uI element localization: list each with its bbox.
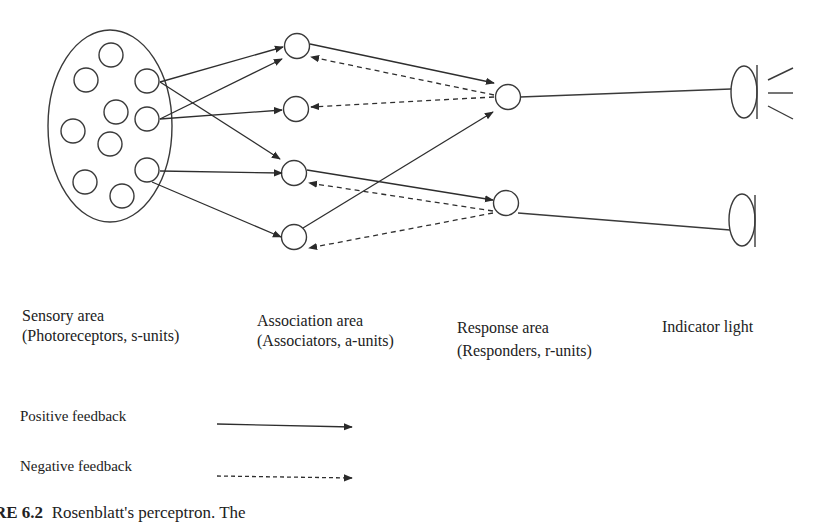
association-area-title: Association area xyxy=(257,311,394,331)
indicator-light-lit-icon xyxy=(731,65,793,119)
figure-number: RE 6.2 xyxy=(0,503,43,522)
indicator-light-title: Indicator light xyxy=(662,317,753,337)
s-units xyxy=(61,43,159,208)
legend-positive-label: Positive feedback xyxy=(20,408,126,425)
association-area-subtitle: (Associators, a-units) xyxy=(257,331,394,351)
association-area-label: Association area (Associators, a-units) xyxy=(257,311,394,351)
r-units xyxy=(494,85,521,216)
legend-positive-arrow xyxy=(217,424,352,427)
r-to-light-connections xyxy=(518,89,731,230)
figure-caption-text: Rosenblatt's perceptron. The xyxy=(52,503,246,522)
indicator-light-label: Indicator light xyxy=(662,317,753,337)
indicator-light-off-icon xyxy=(729,194,755,247)
sensory-area-label: Sensory area (Photoreceptors, s-units) xyxy=(22,306,179,346)
legend-negative-label: Negative feedback xyxy=(20,458,132,475)
response-area-label: Response area (Responders, r-units) xyxy=(457,316,592,362)
response-area-subtitle: (Responders, r-units) xyxy=(457,339,592,362)
r-to-a-feedback xyxy=(309,57,494,248)
a-units xyxy=(282,34,310,250)
response-area-title: Response area xyxy=(457,316,592,339)
sensory-area-subtitle: (Photoreceptors, s-units) xyxy=(22,326,179,346)
figure-caption: RE 6.2 Rosenblatt's perceptron. The xyxy=(0,503,246,523)
legend-negative-arrow xyxy=(217,476,352,478)
a-to-r-connections xyxy=(303,44,494,228)
sensory-area-title: Sensory area xyxy=(22,306,179,326)
